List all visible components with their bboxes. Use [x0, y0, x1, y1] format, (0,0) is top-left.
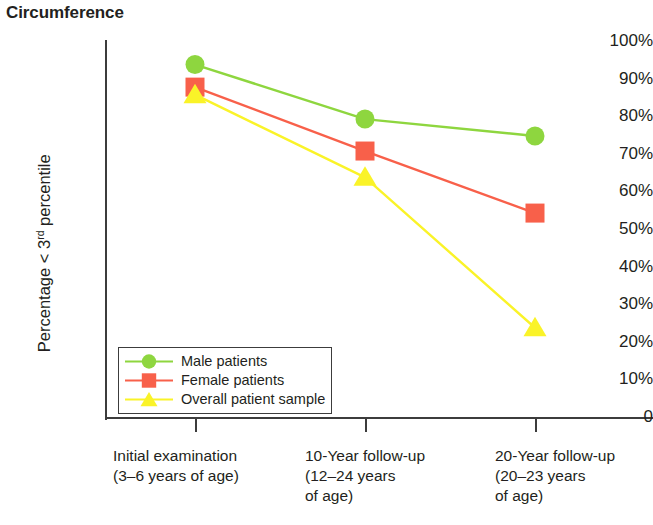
series-line-square	[195, 87, 535, 213]
y-axis-line	[105, 40, 107, 420]
y-axis-title-main: Percentage < 3	[35, 240, 53, 352]
square-marker-icon	[123, 371, 175, 390]
legend-item-label: Female patients	[181, 371, 284, 390]
chart-figure: Circumference Percentage < 3rd percentil…	[0, 0, 653, 525]
y-axis-title-superscript: rd	[34, 230, 46, 239]
data-point-square	[356, 142, 375, 161]
y-axis-tick-label: 80%	[553, 106, 653, 126]
data-point-square	[526, 204, 545, 223]
y-axis-tick-label: 70%	[553, 144, 653, 164]
y-axis-tick-label: 30%	[553, 294, 653, 314]
legend-item: Female patients	[119, 371, 331, 390]
data-point-circle	[526, 127, 545, 146]
data-point-triangle	[184, 84, 207, 104]
x-axis-category-label: Initial examination (3–6 years of age)	[113, 446, 239, 486]
data-point-circle	[186, 55, 205, 74]
legend: Male patientsFemale patientsOverall pati…	[118, 347, 332, 414]
y-axis-tick-label: 100%	[553, 31, 653, 51]
legend-item-label: Overall patient sample	[181, 390, 325, 409]
y-axis-tick-label: 10%	[553, 369, 653, 389]
x-axis-tick	[535, 419, 537, 432]
data-point-triangle	[524, 317, 547, 337]
y-axis-title: Percentage < 3rd percentile	[34, 108, 55, 398]
series-line-circle	[195, 65, 535, 136]
x-axis-category-label: 20-Year follow-up (20–23 years of age)	[495, 446, 615, 506]
x-axis-tick	[365, 419, 367, 432]
y-axis-tick-label: 90%	[553, 69, 653, 89]
data-point-triangle	[354, 166, 377, 186]
legend-item: Overall patient sample	[119, 390, 331, 409]
legend-item-label: Male patients	[181, 352, 267, 371]
y-axis-tick-label: 0	[553, 407, 653, 427]
chart-title: Circumference	[6, 3, 124, 23]
y-axis-tick-label: 20%	[553, 332, 653, 352]
y-axis-tick-label: 50%	[553, 219, 653, 239]
circle-marker-icon	[123, 352, 175, 371]
series-line-triangle	[195, 95, 535, 328]
legend-item: Male patients	[119, 352, 331, 371]
y-axis-tick-label: 60%	[553, 181, 653, 201]
y-axis-title-tail: percentile	[35, 154, 53, 230]
data-point-circle	[356, 110, 375, 129]
triangle-marker-icon	[123, 390, 175, 409]
data-point-square	[186, 78, 205, 97]
x-axis-category-label: 10-Year follow-up (12–24 years of age)	[305, 446, 425, 506]
x-axis-tick	[195, 419, 197, 432]
y-axis-tick-label: 40%	[553, 257, 653, 277]
